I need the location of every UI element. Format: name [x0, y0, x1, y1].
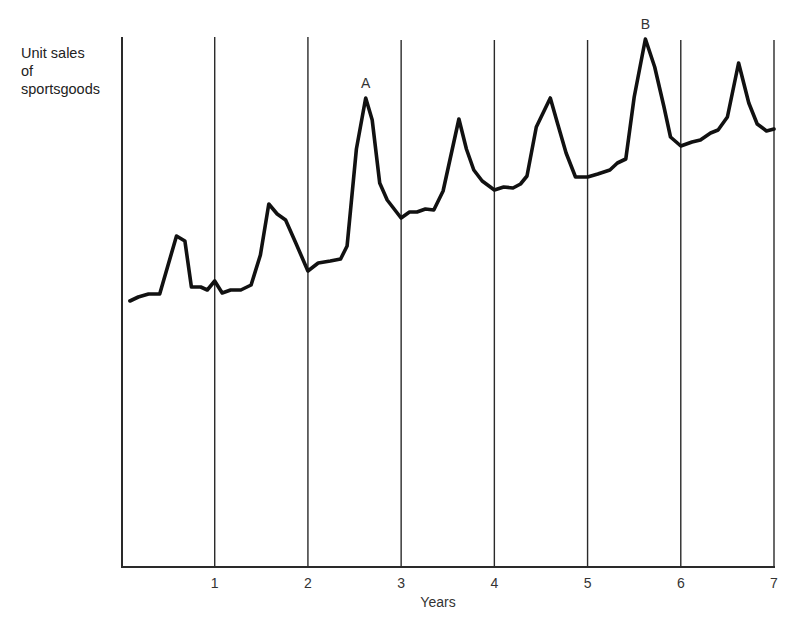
- annotation-a: A: [361, 75, 371, 91]
- sales-series-line: [130, 39, 774, 301]
- x-tick-label: 2: [304, 575, 312, 591]
- x-axis-label: Years: [420, 594, 455, 610]
- x-tick-labels: 1234567: [211, 575, 778, 591]
- x-tick-label: 5: [584, 575, 592, 591]
- y-axis-label: Unit sales of sportsgoods: [21, 44, 100, 98]
- x-tick-label: 1: [211, 575, 219, 591]
- sales-line-chart: 1234567 Years AB: [0, 0, 798, 620]
- x-tick-label: 3: [397, 575, 405, 591]
- annotation-b: B: [641, 16, 650, 32]
- x-tick-label: 4: [490, 575, 498, 591]
- x-tick-label: 6: [677, 575, 685, 591]
- year-gridlines: [215, 37, 774, 567]
- peak-annotations: AB: [361, 16, 650, 91]
- x-tick-label: 7: [770, 575, 778, 591]
